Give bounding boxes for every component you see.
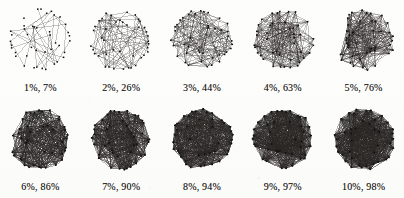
graph-node xyxy=(24,25,26,27)
graph-node xyxy=(176,129,178,131)
graph-node xyxy=(198,155,200,157)
graph-node xyxy=(93,144,95,146)
graph-node xyxy=(123,68,125,70)
graph-node xyxy=(111,14,113,16)
graph-node xyxy=(391,40,393,42)
graph-node xyxy=(24,65,26,67)
graph-node xyxy=(142,133,144,135)
graph-node xyxy=(124,169,126,171)
graph-node xyxy=(173,148,175,150)
graph-node xyxy=(285,152,287,154)
graph-node xyxy=(253,144,255,146)
graph-node xyxy=(370,109,372,111)
graph-node xyxy=(254,47,256,49)
graph-node xyxy=(66,138,68,140)
graph-node xyxy=(231,143,233,145)
graph-node xyxy=(339,54,341,56)
graph-node xyxy=(353,113,355,115)
graph-node xyxy=(194,13,196,15)
graph-node xyxy=(231,44,233,46)
graph-node xyxy=(212,57,214,59)
panel-caption: 3%, 44% xyxy=(183,83,221,93)
graph-node xyxy=(10,41,12,43)
graph-node xyxy=(177,56,179,58)
graph-node xyxy=(200,166,202,168)
graph-node xyxy=(179,152,181,154)
graph-node xyxy=(295,139,297,141)
graph-node xyxy=(139,20,141,22)
graph-node xyxy=(349,62,351,64)
graph-edges xyxy=(173,109,233,168)
graph-node xyxy=(381,15,383,17)
graph-node xyxy=(269,131,271,133)
graph-node xyxy=(27,140,29,142)
graph-node xyxy=(299,34,301,36)
graph-node xyxy=(109,125,111,127)
graph-edge-path xyxy=(92,111,150,170)
panel-caption: 1%, 7% xyxy=(24,83,57,93)
graph-node xyxy=(289,67,291,69)
graph-panel: 4%, 63% xyxy=(242,0,323,99)
graph-node xyxy=(262,58,264,60)
graph-node xyxy=(136,163,138,165)
graph-node xyxy=(388,53,389,55)
graph-node xyxy=(303,131,305,133)
graph-node xyxy=(221,29,223,31)
graph-node xyxy=(176,24,178,26)
graph-node xyxy=(253,45,255,47)
graph-node xyxy=(110,110,112,112)
graph-node xyxy=(45,167,47,169)
graph-node xyxy=(133,145,135,147)
graph-node xyxy=(141,155,143,157)
graph-node xyxy=(199,118,201,120)
graph-node xyxy=(98,158,100,160)
graph-node xyxy=(183,115,185,117)
graph-node xyxy=(348,14,350,16)
graph-node xyxy=(42,110,44,112)
graph-node xyxy=(389,142,391,144)
graph-node xyxy=(130,67,132,69)
graph-node xyxy=(47,125,49,127)
graph-node xyxy=(177,150,179,152)
graph-node xyxy=(50,34,52,36)
graph-node xyxy=(46,13,48,15)
graph-edge-path xyxy=(334,109,393,169)
graph-node xyxy=(387,22,389,24)
graph-node xyxy=(42,68,44,70)
graph-node xyxy=(271,12,273,14)
graph-node xyxy=(206,111,208,113)
graph-node xyxy=(288,11,290,13)
graph-node xyxy=(182,17,184,19)
graph-node xyxy=(303,57,305,59)
graph-canvas xyxy=(162,0,243,82)
graph-node xyxy=(118,111,120,113)
graph-node xyxy=(147,51,149,53)
graph-node xyxy=(267,149,269,151)
graph-node xyxy=(253,135,255,137)
graph-canvas xyxy=(81,99,162,181)
graph-node xyxy=(295,11,297,13)
graph-node xyxy=(232,134,234,136)
graph-node xyxy=(347,47,349,49)
graph-node xyxy=(62,153,64,155)
graph-node xyxy=(285,168,287,170)
graph-node xyxy=(227,154,229,156)
graph-node xyxy=(22,118,24,120)
panel-caption: 4%, 63% xyxy=(264,83,302,93)
graph-node xyxy=(228,35,230,37)
graph-node xyxy=(300,125,302,127)
graph-node xyxy=(389,44,391,46)
graph-panel: 6%, 86% xyxy=(0,99,81,198)
graph-node xyxy=(128,67,130,69)
graph-node xyxy=(211,164,213,166)
graph-node xyxy=(272,66,274,68)
graph-node xyxy=(59,116,61,118)
graph-node xyxy=(265,161,267,163)
graph-node xyxy=(345,37,347,39)
graph-node xyxy=(199,52,201,54)
graph-node xyxy=(226,51,228,53)
graph-node xyxy=(11,47,13,49)
graph-node xyxy=(146,31,148,32)
graph-node xyxy=(368,123,370,125)
graph-node xyxy=(18,132,20,134)
